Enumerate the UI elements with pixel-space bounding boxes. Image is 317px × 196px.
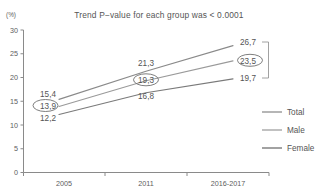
- legend-label-female: Female: [287, 144, 315, 153]
- legend-label-male: Male: [287, 126, 305, 135]
- data-label-male-2016: 26,7: [240, 38, 256, 47]
- data-label-female-2016: 19,7: [240, 74, 256, 83]
- data-label-male-2005: 15,4: [40, 90, 56, 99]
- chart-page: Trend P−value for each group was < 0.000…: [0, 0, 317, 196]
- data-label-male-2011: 21,3: [138, 59, 154, 68]
- chart-title: Trend P−value for each group was < 0.000…: [74, 10, 243, 20]
- legend-item-female[interactable]: Female: [262, 144, 315, 153]
- y-tick-label-0: 0: [14, 168, 18, 177]
- legend: Total Male Female: [262, 108, 315, 153]
- x-tick-label-2016-2017: 2016-2017: [211, 179, 245, 188]
- y-tick-label-30: 30: [10, 26, 18, 35]
- y-tick-label-25: 25: [10, 49, 18, 58]
- data-label-female-2005: 12,2: [40, 114, 56, 123]
- y-tick-label-10: 10: [10, 121, 18, 130]
- y-tick-label-20: 20: [10, 73, 18, 82]
- data-label-total-2011: 19,3: [138, 76, 154, 85]
- legend-item-male[interactable]: Male: [262, 126, 305, 135]
- x-tick-label-2005: 2005: [56, 179, 72, 188]
- y-axis-unit-label: (%): [6, 11, 16, 19]
- x-tick-label-2011: 2011: [138, 179, 153, 188]
- line-chart: Trend P−value for each group was < 0.000…: [0, 0, 317, 196]
- data-label-total-2016: 23,5: [240, 57, 256, 66]
- data-label-female-2011: 16,8: [138, 92, 154, 101]
- legend-item-total[interactable]: Total: [262, 108, 304, 117]
- y-tick-label-15: 15: [10, 97, 18, 106]
- y-tick-label-5: 5: [14, 144, 18, 153]
- legend-label-total: Total: [287, 108, 304, 117]
- range-bracket: [262, 42, 269, 78]
